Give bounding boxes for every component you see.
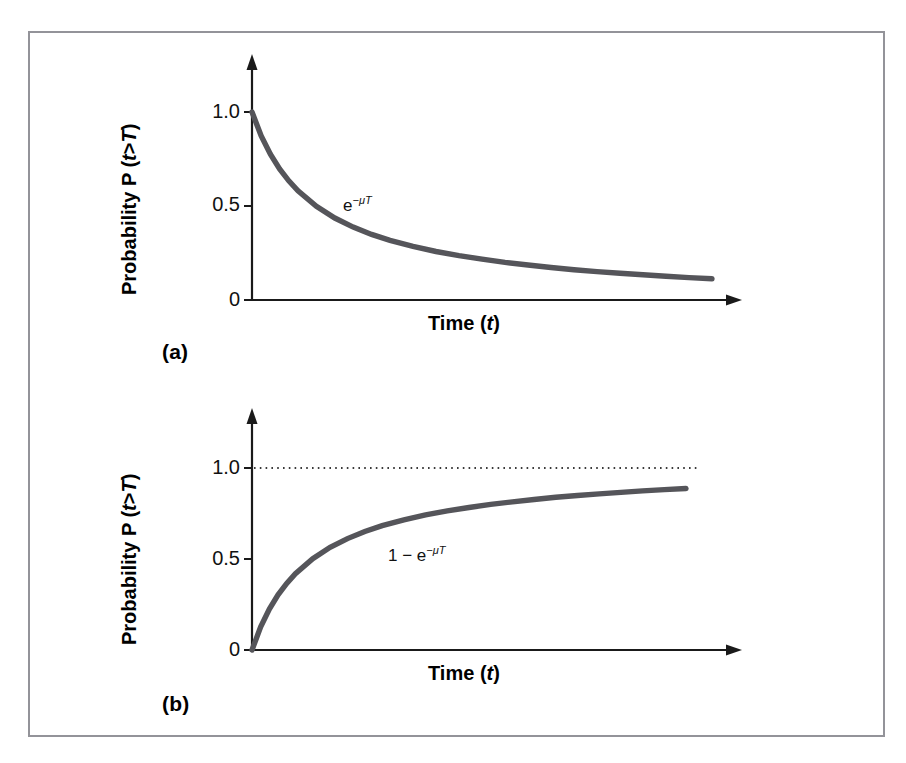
panel-b-plot-area	[0, 400, 906, 763]
panel-a-curve-annotation: e−μT	[343, 196, 372, 216]
panel-b-curve-annotation-exponent: −μT	[426, 544, 445, 556]
panel-b-x-axis-title: Time (t)	[428, 662, 500, 685]
panel-b-curve-annotation: 1 − e−μT	[388, 546, 445, 566]
panel-b-curve-annotation-base: 1 − e	[388, 546, 426, 565]
panel-b: Probability P (t>T) 1.0 0.5 0 1	[0, 400, 906, 763]
panel-a-curve-exponential-decay	[252, 112, 712, 279]
panel-b-label: (b)	[162, 692, 189, 716]
panel-a-y-axis-arrow-icon	[247, 54, 258, 70]
panel-a-x-axis-title: Time (t)	[428, 312, 500, 335]
panel-a-x-axis-title-text: Time (	[428, 312, 487, 334]
panel-b-x-axis-title-close: )	[493, 662, 500, 684]
panel-a-x-axis-title-close: )	[493, 312, 500, 334]
panel-a-plot-area	[0, 0, 906, 400]
panel-a-label: (a)	[162, 340, 188, 364]
figure-root: Probability P (t>T) 1.0 0.5 0 e−μT	[0, 0, 906, 763]
panel-b-curve-exponential-saturation	[252, 489, 686, 650]
panel-b-x-axis-arrow-icon	[726, 645, 742, 656]
panel-a: Probability P (t>T) 1.0 0.5 0 e−μT	[0, 0, 906, 400]
panel-a-x-axis-arrow-icon	[726, 295, 742, 306]
panel-b-x-axis-title-text: Time (	[428, 662, 487, 684]
panel-b-y-axis-arrow-icon	[247, 408, 258, 424]
panel-a-curve-annotation-exponent: −μT	[352, 194, 371, 206]
